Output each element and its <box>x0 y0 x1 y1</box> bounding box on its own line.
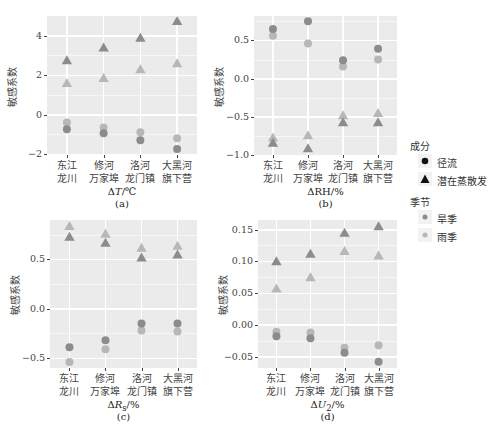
y-tick-label: −0.5 <box>215 111 249 122</box>
runoff-point <box>269 25 277 33</box>
runoff-point <box>101 345 109 353</box>
x-tick-mark <box>273 155 274 158</box>
y-axis-label: 敏感系数 <box>7 273 22 317</box>
runoff-point <box>173 134 181 142</box>
runoff-point <box>375 341 383 349</box>
pet-point <box>136 243 146 252</box>
runoff-point <box>65 358 73 366</box>
runoff-point <box>63 125 71 133</box>
x-tick-mark <box>310 368 311 371</box>
y-tick-label: 0.15 <box>219 224 253 235</box>
runoff-point <box>136 136 144 144</box>
runoff-point <box>100 129 108 137</box>
scatter-points <box>50 220 197 368</box>
runoff-point <box>374 45 382 53</box>
pet-point <box>100 238 110 247</box>
x-tick-mark <box>345 368 346 371</box>
runoff-point <box>173 145 181 153</box>
y-tick-label: −2 <box>8 148 42 159</box>
runoff-point <box>101 336 109 344</box>
runoff-point <box>63 118 71 126</box>
pet-point <box>373 108 383 117</box>
pet-point <box>136 252 146 261</box>
runoff-point <box>272 332 280 340</box>
runoff-point <box>341 349 349 357</box>
runoff-point <box>138 327 146 335</box>
pet-point <box>172 241 182 250</box>
legend-item-dry: 旱季 <box>437 211 457 226</box>
y-tick-label: 0.5 <box>11 253 45 264</box>
x-tick-mark <box>177 155 178 158</box>
circle-icon <box>418 154 432 168</box>
pet-point <box>64 221 74 230</box>
pet-point <box>172 58 182 67</box>
y-tick-label: 0.00 <box>219 319 253 330</box>
panel-caption: (d) <box>258 411 397 422</box>
x-tick-mark <box>105 368 106 371</box>
x-tick-mark <box>378 155 379 158</box>
runoff-point <box>136 128 144 136</box>
pet-point <box>172 250 182 259</box>
legend-item-runoff: 径流 <box>437 155 457 170</box>
y-tick-mark <box>251 155 254 156</box>
runoff-point <box>138 320 146 328</box>
x-tick-mark <box>104 155 105 158</box>
y-tick-label: 0.10 <box>219 255 253 266</box>
runoff-point <box>375 358 383 366</box>
x-tick-mark <box>178 368 179 371</box>
runoff-point <box>65 343 73 351</box>
pet-point <box>271 256 281 265</box>
y-tick-label: −1.0 <box>215 149 249 160</box>
y-axis-label: 敏感系数 <box>215 273 230 317</box>
legend-key-rainy <box>418 228 432 242</box>
pet-point <box>135 33 145 42</box>
pet-point <box>305 249 315 258</box>
pet-point <box>339 228 349 237</box>
pet-point <box>373 251 383 260</box>
legend: 成分 径流 潜在蒸散发 季节 旱季 雨季 <box>410 138 493 233</box>
y-axis-label: 敏感系数 <box>4 64 19 108</box>
legend-title-season: 季节 <box>410 194 430 209</box>
runoff-point <box>304 39 312 47</box>
runoff-point <box>174 320 182 328</box>
runoff-point <box>374 56 382 64</box>
pet-point <box>339 246 349 255</box>
y-tick-label: −0.05 <box>219 351 253 362</box>
x-category-label: 大黑河旗下营 <box>155 372 201 398</box>
scatter-points <box>254 16 397 155</box>
x-tick-mark <box>308 155 309 158</box>
panel-caption: (c) <box>50 411 197 422</box>
pet-point <box>100 229 110 238</box>
x-axis-title: ΔRH/% <box>254 186 397 197</box>
triangle-icon <box>418 172 432 186</box>
runoff-point <box>269 32 277 40</box>
x-category-label: 大黑河旗下营 <box>356 372 402 398</box>
x-tick-mark <box>276 368 277 371</box>
pet-point <box>303 143 313 152</box>
panel-caption: (a) <box>47 198 197 209</box>
legend-item-rainy: 雨季 <box>437 229 457 244</box>
runoff-point <box>339 56 347 64</box>
runoff-point <box>306 334 314 342</box>
x-tick-mark <box>140 155 141 158</box>
y-tick-label: −0.5 <box>11 352 45 363</box>
x-tick-mark <box>67 155 68 158</box>
pet-point <box>62 78 72 87</box>
pet-point <box>373 221 383 230</box>
dot-icon <box>418 228 432 242</box>
x-axis-title: ΔT/℃ <box>47 186 197 197</box>
y-tick-label: 0.5 <box>215 34 249 45</box>
runoff-point <box>304 17 312 25</box>
legend-title-component: 成分 <box>410 138 430 153</box>
pet-point <box>271 284 281 293</box>
pet-point <box>305 272 315 281</box>
legend-key-pet <box>418 172 432 186</box>
y-tick-label: 0 <box>8 109 42 120</box>
panel-caption: (b) <box>254 198 397 209</box>
legend-key-dry <box>418 210 432 224</box>
x-tick-mark <box>142 368 143 371</box>
pet-point <box>98 73 108 82</box>
y-tick-label: 4 <box>8 30 42 41</box>
pet-point <box>64 232 74 241</box>
pet-point <box>373 117 383 126</box>
